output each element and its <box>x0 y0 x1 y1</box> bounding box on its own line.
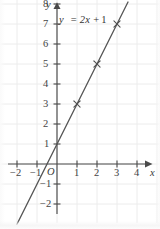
plotted-line <box>5 2 128 229</box>
x-tick-label-neg1: −1 <box>30 168 41 179</box>
x-tick-label-1: 1 <box>74 168 79 179</box>
graph-figure: 8 7 6 5 4 3 2 1 −1 −2 −2 −1 1 2 3 4 O y … <box>0 0 160 229</box>
equation-intercept: 1 <box>101 14 106 25</box>
y-tick-label-6: 6 <box>43 39 48 50</box>
x-tick-label-3: 3 <box>114 168 119 179</box>
y-tick-label-3: 3 <box>43 99 48 110</box>
y-tick-label-1: 1 <box>44 139 49 150</box>
equation-slope-term: 2x <box>77 14 90 25</box>
coordinate-plane <box>0 0 160 229</box>
x-tick-label-4: 4 <box>134 168 139 179</box>
y-tick-label-neg1: −1 <box>40 179 51 190</box>
x-tick-label-2: 2 <box>94 168 99 179</box>
grid-lines-vertical <box>17 0 157 223</box>
equation-equals-sign: = <box>71 14 77 25</box>
y-tick-label-5: 5 <box>43 59 48 70</box>
equation-label: y =2x+1 <box>59 15 107 26</box>
y-axis-label: y <box>46 0 51 11</box>
y-tick-label-4: 4 <box>43 79 48 90</box>
x-axis-label: x <box>150 168 155 179</box>
equation-equals <box>64 14 71 25</box>
y-tick-label-neg2: −2 <box>40 199 51 210</box>
y-tick-label-7: 7 <box>43 19 48 30</box>
equation-plus: + <box>90 14 101 25</box>
y-tick-label-2: 2 <box>43 119 48 130</box>
x-tick-label-neg2: −2 <box>10 168 21 179</box>
origin-label: O <box>47 167 55 178</box>
y-axis <box>54 2 61 214</box>
